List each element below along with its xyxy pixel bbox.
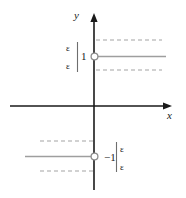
epsilon-label-lower-top: ε (120, 145, 124, 154)
y-axis-arrow (90, 13, 97, 22)
x-axis (10, 102, 172, 109)
open-circle-lower (91, 153, 98, 160)
label-negative-one: −1 (104, 152, 116, 163)
plot-canvas (0, 0, 186, 198)
epsilon-label-lower-bottom: ε (120, 163, 124, 172)
graph-figure: y x 1 −1 ε ε ε ε (0, 0, 186, 198)
epsilon-label-upper-bottom: ε (66, 62, 70, 71)
y-axis-label: y (74, 10, 79, 21)
open-circle-upper (91, 53, 98, 60)
epsilon-label-upper-top: ε (66, 44, 70, 53)
x-axis-label: x (167, 110, 172, 121)
label-one: 1 (81, 51, 87, 62)
